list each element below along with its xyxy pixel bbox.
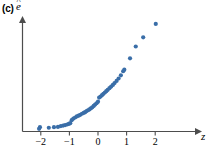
x-axis-tick-label: −1	[64, 136, 75, 147]
data-points	[37, 22, 158, 131]
figure-panel-c: (c) ^e z −2−1012	[0, 0, 213, 151]
data-point	[119, 73, 123, 77]
axes	[23, 22, 197, 132]
data-point	[154, 22, 158, 26]
x-axis-tick-label: 1	[124, 136, 129, 147]
data-point	[96, 100, 100, 104]
data-point	[128, 56, 132, 60]
x-axis-tick-label: 0	[96, 136, 101, 147]
scatter-plot	[0, 0, 213, 151]
data-point	[141, 35, 145, 39]
x-axis-tick-label: 2	[153, 136, 158, 147]
data-point	[122, 68, 126, 72]
data-point	[47, 126, 51, 130]
data-point	[52, 125, 56, 129]
data-point	[38, 125, 42, 129]
x-axis-tick-label: −2	[35, 136, 46, 147]
data-point	[134, 44, 138, 48]
